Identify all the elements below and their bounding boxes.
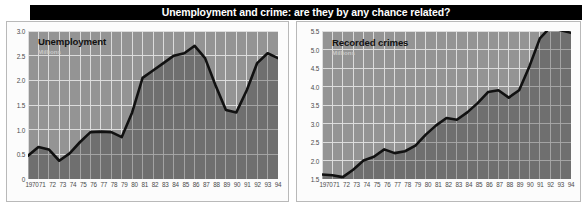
x-tick-label: 89 bbox=[223, 181, 230, 188]
chart-svg-unemployment bbox=[28, 31, 278, 179]
x-tick-label: 85 bbox=[182, 181, 189, 188]
x-tick-label: 83 bbox=[455, 181, 462, 188]
x-tick-label: 80 bbox=[425, 181, 432, 188]
x-tick-label: 71 bbox=[333, 181, 340, 188]
y-tick-label: 2.0 bbox=[17, 77, 25, 84]
x-tick-label: 91 bbox=[244, 181, 251, 188]
x-tick-label: 82 bbox=[152, 181, 159, 188]
y-tick-label: 3.0 bbox=[311, 120, 319, 127]
x-axis-labels-unemployment: 1970717273747576777879808182838485868788… bbox=[10, 181, 278, 192]
title-banner: Unemployment and crime: are they by any … bbox=[30, 5, 582, 20]
x-tick-label: 88 bbox=[213, 181, 220, 188]
x-tick-label: 88 bbox=[506, 181, 513, 188]
y-tick-label: 1.0 bbox=[17, 126, 25, 133]
x-tick-label: 94 bbox=[568, 181, 575, 188]
x-tick-label: 1970 bbox=[319, 181, 332, 188]
x-tick-label: 75 bbox=[374, 181, 381, 188]
x-tick-label: 77 bbox=[100, 181, 107, 188]
y-tick-label: 4.5 bbox=[311, 65, 319, 72]
x-tick-label: 85 bbox=[476, 181, 483, 188]
x-tick-label: 92 bbox=[254, 181, 261, 188]
x-tick-label: 76 bbox=[90, 181, 97, 188]
x-tick-label: 83 bbox=[162, 181, 169, 188]
x-tick-label: 92 bbox=[547, 181, 554, 188]
plot-area-unemployment: Unemployment Millions bbox=[28, 31, 278, 179]
x-tick-label: 72 bbox=[49, 181, 56, 188]
y-tick-label: 1.5 bbox=[17, 102, 25, 109]
plot-area-recorded-crimes: Recorded crimes Millions bbox=[322, 31, 571, 179]
x-tick-label: 78 bbox=[404, 181, 411, 188]
x-tick-label: 77 bbox=[394, 181, 401, 188]
figure-title: Unemployment and crime: are they by any … bbox=[162, 7, 451, 18]
x-tick-label: 93 bbox=[264, 181, 271, 188]
x-tick-label: 76 bbox=[384, 181, 391, 188]
x-tick-label: 93 bbox=[557, 181, 564, 188]
x-tick-label: 82 bbox=[445, 181, 452, 188]
y-tick-label: 4.0 bbox=[311, 83, 319, 90]
x-tick-label: 94 bbox=[275, 181, 282, 188]
x-tick-label: 79 bbox=[415, 181, 422, 188]
x-tick-label: 89 bbox=[517, 181, 524, 188]
x-tick-label: 71 bbox=[39, 181, 46, 188]
chart-svg-recorded-crimes bbox=[322, 31, 571, 179]
figure-unemployment-crime: Unemployment and crime: are they by any … bbox=[0, 0, 587, 208]
x-tick-label: 74 bbox=[364, 181, 371, 188]
x-tick-label: 81 bbox=[435, 181, 442, 188]
y-axis-labels-recorded-crimes: 1.52.02.53.03.54.04.55.05.5 bbox=[298, 31, 321, 179]
x-tick-label: 73 bbox=[59, 181, 66, 188]
x-tick-label: 86 bbox=[486, 181, 493, 188]
x-tick-label: 91 bbox=[537, 181, 544, 188]
x-axis-labels-recorded-crimes: 1970717273747576777879808182838485868788… bbox=[304, 181, 571, 192]
y-tick-label: 2.5 bbox=[17, 52, 25, 59]
y-tick-label: 3.5 bbox=[311, 102, 319, 109]
x-tick-label: 73 bbox=[353, 181, 360, 188]
x-tick-label: 87 bbox=[203, 181, 210, 188]
y-tick-label: 0.5 bbox=[17, 151, 25, 158]
x-tick-label: 86 bbox=[193, 181, 200, 188]
x-tick-label: 84 bbox=[172, 181, 179, 188]
x-tick-label: 80 bbox=[131, 181, 138, 188]
chart-panel-unemployment: 00.51.01.52.02.53.0 Unemployment Million… bbox=[6, 21, 289, 202]
y-tick-label: 2.0 bbox=[311, 157, 319, 164]
x-tick-label: 87 bbox=[496, 181, 503, 188]
y-tick-label: 5.5 bbox=[311, 28, 319, 35]
plot-canvas-recorded-crimes bbox=[322, 31, 571, 179]
x-tick-label: 75 bbox=[80, 181, 87, 188]
x-tick-label: 90 bbox=[527, 181, 534, 188]
x-tick-label: 81 bbox=[141, 181, 148, 188]
plot-canvas-unemployment bbox=[28, 31, 278, 179]
x-tick-label: 74 bbox=[70, 181, 77, 188]
y-tick-label: 2.5 bbox=[311, 139, 319, 146]
x-tick-label: 84 bbox=[466, 181, 473, 188]
y-tick-label: 5.0 bbox=[311, 46, 319, 53]
x-tick-label: 72 bbox=[343, 181, 350, 188]
chart-panel-recorded-crimes: 1.52.02.53.03.54.04.55.05.5 Recorded cri… bbox=[296, 21, 581, 202]
y-axis-labels-unemployment: 00.51.01.52.02.53.0 bbox=[7, 31, 27, 179]
x-tick-label: 79 bbox=[121, 181, 128, 188]
x-tick-label: 1970 bbox=[25, 181, 38, 188]
x-tick-label: 78 bbox=[111, 181, 118, 188]
y-tick-label: 3.0 bbox=[17, 28, 25, 35]
x-tick-label: 90 bbox=[234, 181, 241, 188]
